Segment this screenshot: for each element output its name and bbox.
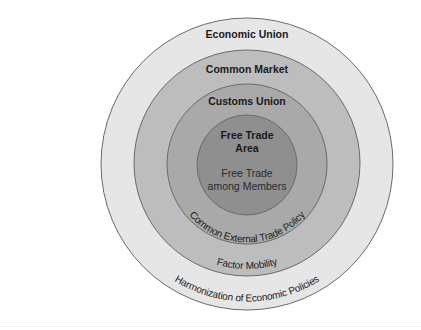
bottom-divider — [0, 326, 421, 327]
free-trade-feature-line1: Free Trade — [221, 167, 273, 179]
free-trade-area-label-line1: Free Trade — [220, 129, 273, 141]
common-market-label: Common Market — [206, 63, 289, 75]
free-trade-feature-line2: among Members — [208, 180, 287, 192]
economic-integration-diagram: Economic Union Common Market Customs Uni… — [0, 0, 421, 330]
customs-union-label: Customs Union — [208, 95, 286, 107]
economic-union-label: Economic Union — [206, 28, 289, 40]
free-trade-area-label-line2: Area — [235, 142, 259, 154]
